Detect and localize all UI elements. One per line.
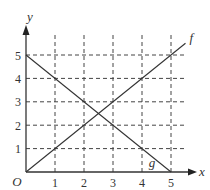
y-tick-label-4: 4: [15, 72, 21, 86]
x-tick-label-3: 3: [110, 176, 116, 190]
y-axis-label: y: [25, 9, 33, 24]
x-tick-label-4: 4: [139, 176, 145, 190]
x-axis-arrow-icon: [188, 169, 197, 176]
x-tick-label-1: 1: [52, 176, 58, 190]
series-lines: [26, 43, 186, 172]
x-axis-label: x: [198, 164, 205, 179]
series-label-f: f: [189, 30, 195, 45]
origin-label: O: [12, 174, 22, 189]
y-tick-label-5: 5: [15, 49, 21, 63]
y-tick-label-1: 1: [15, 142, 21, 156]
series-label-g: g: [149, 155, 156, 170]
chart: fg1234512345xyO: [0, 0, 210, 190]
series-line-f: [26, 43, 186, 172]
grid-lines: [26, 33, 186, 172]
y-tick-label-3: 3: [15, 95, 21, 109]
axis-labels: fg1234512345xyO: [12, 9, 205, 190]
x-tick-label-2: 2: [81, 176, 87, 190]
y-tick-label-2: 2: [15, 119, 21, 133]
x-tick-label-5: 5: [168, 176, 174, 190]
y-axis-arrow-icon: [23, 25, 30, 35]
